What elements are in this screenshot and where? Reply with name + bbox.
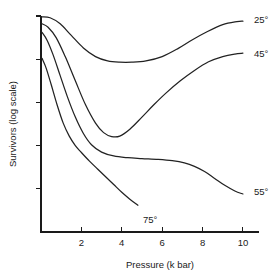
x-tick-labels-group: 246810 bbox=[79, 237, 248, 248]
series-curve-75deg bbox=[42, 58, 138, 205]
series-labels-group: 25°45°55°75° bbox=[143, 14, 269, 225]
series-label-25deg: 25° bbox=[254, 14, 269, 25]
curves-group bbox=[42, 17, 243, 205]
x-tick-label-0: 2 bbox=[79, 237, 84, 248]
x-tick-label-2: 6 bbox=[160, 237, 165, 248]
chart-figure: 246810 25°45°55°75° Pressure (k bar) Sur… bbox=[0, 0, 279, 279]
series-label-75deg: 75° bbox=[143, 214, 158, 225]
x-tick-label-4: 10 bbox=[238, 237, 249, 248]
axes-group bbox=[41, 16, 259, 232]
x-axis-title: Pressure (k bar) bbox=[126, 259, 194, 270]
series-label-55deg: 55° bbox=[254, 186, 269, 197]
y-axis-title: Survivors (log scale) bbox=[7, 81, 18, 167]
series-curve-25deg bbox=[42, 17, 243, 63]
axis-lines bbox=[41, 16, 259, 232]
chart-plot-area: 246810 25°45°55°75° Pressure (k bar) Sur… bbox=[0, 0, 279, 279]
x-tick-label-3: 8 bbox=[200, 237, 205, 248]
series-label-45deg: 45° bbox=[254, 48, 269, 59]
tick-marks-group bbox=[36, 16, 243, 232]
series-curve-55deg bbox=[42, 32, 243, 194]
series-curve-45deg bbox=[42, 24, 243, 137]
x-tick-label-1: 4 bbox=[119, 237, 124, 248]
